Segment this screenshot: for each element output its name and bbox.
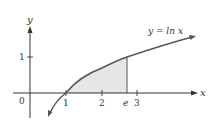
function-label: y = ln x [147,26,183,36]
y-axis-label: y [26,14,33,25]
x-tick-label-1: 1 [63,98,69,108]
x-axis-label: x [200,87,206,98]
x-axis-arrow-icon [191,91,198,96]
y-axis-arrow-icon [28,26,33,33]
origin-label: 0 [19,96,25,106]
y-tick-label-1: 1 [19,52,25,62]
ln-graph: y x 0 1 1 2 e 3 y = ln x [0,0,218,122]
curve-arrow-icon [189,35,196,40]
x-tick-label-3: 3 [134,98,140,108]
curve-lower-arrow-icon [48,110,53,117]
x-tick-label-2: 2 [99,98,105,108]
shaded-area [66,57,127,93]
x-tick-label-e: e [123,98,128,108]
